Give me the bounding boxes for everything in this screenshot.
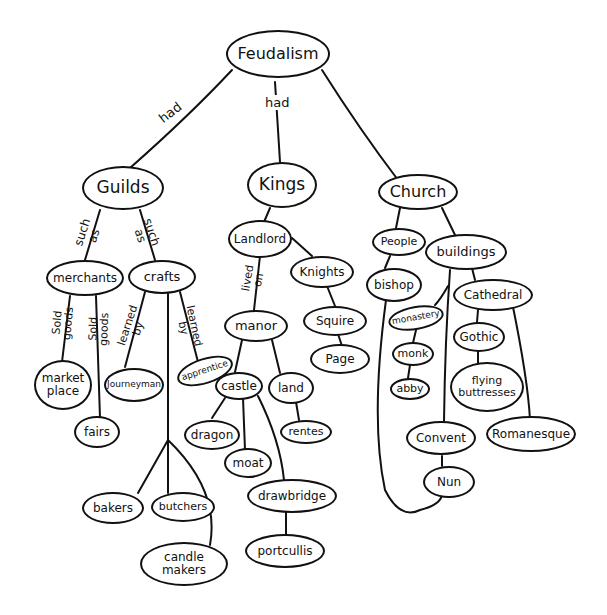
edge-castle-dragon bbox=[212, 398, 225, 418]
node-bakers[interactable]: bakers bbox=[82, 492, 144, 524]
node-castle[interactable]: castle bbox=[215, 372, 263, 400]
node-merchants[interactable]: merchants bbox=[46, 260, 124, 296]
edge-feudalism-church bbox=[322, 70, 398, 180]
node-gothic[interactable]: Gothic bbox=[453, 322, 505, 352]
node-crafts[interactable]: crafts bbox=[128, 260, 196, 294]
node-land[interactable]: land bbox=[268, 372, 314, 404]
node-market-place[interactable]: market place bbox=[34, 360, 92, 410]
node-drawbridge[interactable]: drawbridge bbox=[247, 479, 337, 513]
edge-manor-land bbox=[272, 340, 280, 373]
edge-label-sold-goods: Sold goods bbox=[87, 312, 110, 346]
node-people[interactable]: People bbox=[372, 228, 426, 256]
edge-buildings-cathedral bbox=[472, 268, 475, 280]
node-flying-buttresses[interactable]: flying buttresses bbox=[450, 362, 524, 412]
edge-people-bishop bbox=[385, 256, 390, 268]
node-squire[interactable]: Squire bbox=[303, 306, 367, 336]
node-feudalism[interactable]: Feudalism bbox=[226, 30, 330, 78]
node-landlord[interactable]: Landlord bbox=[228, 220, 292, 258]
node-abby[interactable]: abby bbox=[390, 378, 430, 400]
node-bishop[interactable]: bishop bbox=[366, 268, 422, 302]
node-moat[interactable]: moat bbox=[224, 448, 272, 478]
node-page[interactable]: Page bbox=[310, 344, 370, 374]
node-church[interactable]: Church bbox=[378, 174, 458, 210]
node-kings[interactable]: Kings bbox=[247, 162, 317, 208]
edge-cathedral-gothic bbox=[477, 310, 478, 322]
node-butchers[interactable]: butchers bbox=[151, 492, 215, 522]
edge-label-had: had bbox=[265, 95, 289, 110]
node-convent[interactable]: Convent bbox=[406, 421, 476, 455]
edge-label-sold-goods: Sold goods bbox=[50, 306, 75, 341]
node-buildings[interactable]: buildings bbox=[425, 234, 507, 270]
node-guilds[interactable]: Guilds bbox=[82, 166, 164, 210]
node-dragon[interactable]: dragon bbox=[184, 420, 240, 450]
edge-church-buildings bbox=[442, 208, 455, 235]
node-nun[interactable]: Nun bbox=[423, 466, 475, 498]
node-rents[interactable]: rentes bbox=[280, 420, 332, 444]
edge-feudalism-guilds bbox=[130, 70, 232, 168]
edge-manor-castle bbox=[235, 340, 242, 372]
edge-crafts-bakers bbox=[138, 440, 168, 493]
node-portcullis[interactable]: portcullis bbox=[245, 534, 325, 568]
edge-knights-squire bbox=[327, 286, 335, 306]
concept-map: had had such as such as Sold goods Sold … bbox=[0, 0, 607, 615]
node-manor[interactable]: manor bbox=[224, 310, 288, 342]
node-cathedral[interactable]: Cathedral bbox=[453, 279, 533, 311]
edge-feudalism-kings bbox=[275, 82, 280, 162]
node-knights[interactable]: Knights bbox=[290, 256, 354, 288]
node-romanesque[interactable]: Romanesque bbox=[486, 416, 576, 452]
edge-landlord-knights bbox=[292, 238, 312, 256]
edge-label-lived-on: lived on bbox=[240, 264, 266, 294]
edge-castle-moat bbox=[243, 398, 245, 450]
node-fairs[interactable]: fairs bbox=[74, 416, 120, 448]
node-journeyman[interactable]: Journeyman bbox=[104, 368, 164, 402]
edge-land-rents bbox=[296, 402, 299, 420]
edge-monk-abby bbox=[408, 365, 410, 378]
edge-buildings-monastery bbox=[435, 286, 448, 305]
node-candle-makers[interactable]: candle makers bbox=[140, 542, 228, 586]
edge-church-people bbox=[396, 208, 400, 228]
node-monk[interactable]: monk bbox=[392, 342, 434, 366]
